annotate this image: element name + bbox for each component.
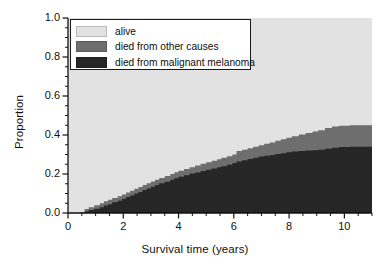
y-tick-label: 0.8 [26,50,60,62]
y-tick-label: 0.6 [26,89,60,101]
legend-label-died-other-causes: died from other causes [115,41,219,52]
x-tick-label: 4 [164,220,194,232]
legend-label-alive: alive [115,26,136,37]
legend-item-alive: alive [76,24,250,38]
chart-legend: alive died from other causes died from m… [70,19,251,70]
legend-label-died-malignant-melanoma: died from malignant melanoma [115,57,255,68]
y-tick-label: 0.4 [26,128,60,140]
x-tick-label: 6 [219,220,249,232]
x-tick-label: 8 [274,220,304,232]
x-tick-label: 2 [108,220,138,232]
x-tick-label: 10 [329,220,359,232]
x-axis-title: Survival time (years) [0,243,390,255]
legend-item-died-other-causes: died from other causes [76,40,250,54]
legend-item-died-malignant-melanoma: died from malignant melanoma [76,55,250,69]
legend-swatch-alive [76,26,107,37]
x-tick-label: 0 [53,220,83,232]
y-tick-label: 1.0 [26,11,60,23]
legend-swatch-died-other-causes [76,41,107,52]
y-tick-label: 0.0 [26,206,60,218]
legend-swatch-died-malignant-melanoma [76,57,107,68]
y-axis-title: Proportion [13,67,25,177]
cumulative-incidence-chart: 0.00.20.40.60.81.0 0246810 Proportion Su… [0,0,390,264]
y-tick-label: 0.2 [26,167,60,179]
